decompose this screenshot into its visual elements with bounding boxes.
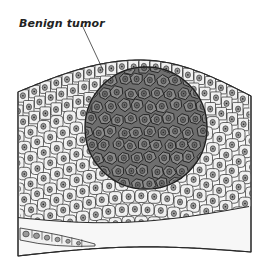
cell-nucleus <box>263 125 268 131</box>
epithelial-cell <box>259 135 269 148</box>
cell-nucleus <box>255 151 260 157</box>
epithelial-cell <box>252 252 265 265</box>
epithelial-cell <box>5 170 18 183</box>
cell-nucleus <box>242 252 247 258</box>
epithelial-cell <box>252 200 265 213</box>
epithelial-cell <box>5 196 18 209</box>
epithelial-cell <box>259 187 269 200</box>
epithelial-cell <box>5 248 18 261</box>
cell-nucleus <box>77 241 81 245</box>
epithelial-cell <box>5 222 18 235</box>
cell-nucleus <box>9 174 14 180</box>
cell-nucleus <box>8 251 13 257</box>
benign-tumor-label: Benign tumor <box>19 17 105 30</box>
cell-nucleus <box>262 216 267 222</box>
cell-nucleus <box>9 199 14 205</box>
cell-nucleus <box>262 138 267 144</box>
cell-nucleus <box>55 237 60 241</box>
cell-nucleus <box>256 229 261 235</box>
cell-nucleus <box>8 225 13 231</box>
cell-nucleus <box>256 177 261 183</box>
epithelial-cell <box>259 239 269 252</box>
cell-nucleus <box>44 235 49 240</box>
cell-nucleus <box>263 99 268 105</box>
cell-nucleus <box>34 233 40 238</box>
cell-nucleus <box>15 160 20 166</box>
cell-nucleus <box>250 190 255 196</box>
epithelial-cell <box>252 226 265 239</box>
cell-nucleus <box>10 121 15 127</box>
epithelial-cell <box>252 148 265 161</box>
cell-nucleus <box>256 255 261 261</box>
epithelial-cell <box>259 161 269 174</box>
benign-tumor-diagram <box>0 0 268 271</box>
cell-nucleus <box>262 242 267 248</box>
epithelial-cell <box>260 96 268 109</box>
cell-nucleus <box>251 100 256 106</box>
epithelial-cell <box>7 92 18 105</box>
cell-nucleus <box>10 95 15 101</box>
epithelial-cell <box>252 174 265 187</box>
epithelial-cell <box>255 109 266 122</box>
cell-nucleus <box>66 239 70 243</box>
cell-nucleus <box>8 147 13 153</box>
epithelial-cell <box>5 144 18 157</box>
cell-nucleus <box>256 204 261 210</box>
epithelial-cell <box>259 213 269 226</box>
label-leader-line <box>82 25 103 70</box>
cell-nucleus <box>262 165 267 171</box>
epithelial-cell <box>260 122 268 135</box>
cell-nucleus <box>251 125 256 131</box>
cell-nucleus <box>23 231 29 237</box>
epithelial-cell <box>7 118 18 131</box>
cell-nucleus <box>257 112 262 118</box>
cell-nucleus <box>262 190 267 196</box>
